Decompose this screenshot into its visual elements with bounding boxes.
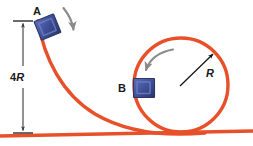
horizontal-ground-track xyxy=(0,131,253,136)
diagram-canvas: 4R A B R xyxy=(0,0,253,146)
point-b-label: B xyxy=(118,82,126,94)
radius-label: R xyxy=(206,67,214,79)
height-label: 4R xyxy=(10,71,24,83)
motion-arrow-at-a xyxy=(64,8,74,30)
physics-diagram-figure: 4R A B R xyxy=(0,0,253,146)
block-at-point-b xyxy=(134,79,155,98)
block-at-point-a xyxy=(34,14,61,40)
block-a-body xyxy=(34,14,61,40)
point-a-label: A xyxy=(33,5,41,17)
height-label-symbol: R xyxy=(16,71,24,83)
motion-arrow-in-loop xyxy=(146,50,173,71)
